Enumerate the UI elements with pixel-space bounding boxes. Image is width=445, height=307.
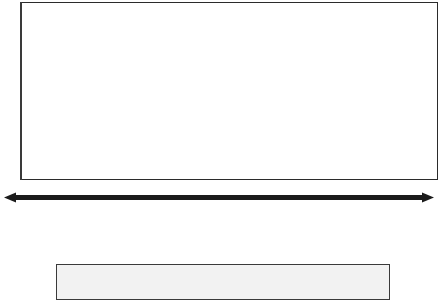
legend-row-bottom <box>63 282 383 296</box>
timeline-chart <box>0 0 445 307</box>
data-series-layer <box>0 0 445 200</box>
event-labels <box>0 200 445 262</box>
legend <box>56 264 390 300</box>
legend-row-top <box>63 268 383 282</box>
